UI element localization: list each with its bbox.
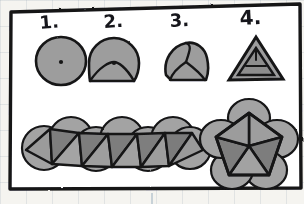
sketch-canvas: 1. 2. 3. 4. bbox=[0, 0, 304, 204]
step-1-label: 1. bbox=[39, 10, 60, 33]
step-2-figure bbox=[89, 38, 139, 81]
sketch-panel: 1. 2. 3. 4. bbox=[0, 0, 304, 204]
step-3-label: 3. bbox=[169, 9, 189, 31]
step-4-label: 4. bbox=[239, 5, 262, 30]
step-2-label: 2. bbox=[103, 10, 124, 32]
center-dot-step-1 bbox=[59, 60, 63, 64]
step-1-figure bbox=[36, 37, 86, 85]
center-dot-step-2 bbox=[112, 61, 116, 65]
